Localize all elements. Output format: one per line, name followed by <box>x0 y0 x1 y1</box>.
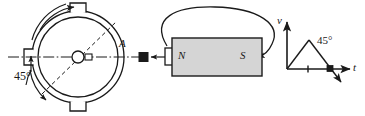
magnet-group <box>172 38 262 76</box>
wheel-hub <box>72 51 84 63</box>
magnet-south-label: S <box>240 50 246 61</box>
wheel-lug-bottom <box>70 102 86 112</box>
sensor-target-marker <box>139 53 148 62</box>
magnet-body <box>172 38 262 76</box>
graph-curve-falling <box>309 40 341 82</box>
wheel-hub-key <box>85 54 92 60</box>
graph-angle-label: 45° <box>317 35 332 46</box>
wheel-group <box>8 3 148 111</box>
magnet-north-label: N <box>178 50 185 61</box>
wheel-point-a-label: A <box>119 38 126 49</box>
rotation-arrow-lower <box>30 70 46 100</box>
graph-zero-crossing-marker <box>327 66 333 72</box>
graph-curve-rising <box>287 40 309 69</box>
graph-v-axis-label: v <box>277 15 282 26</box>
velocity-time-graph <box>287 22 350 82</box>
graph-t-axis-label: t <box>353 62 356 73</box>
physics-diagram: 45° A N S v t 45° <box>0 0 365 116</box>
wheel-angle-label: 45° <box>14 70 31 82</box>
